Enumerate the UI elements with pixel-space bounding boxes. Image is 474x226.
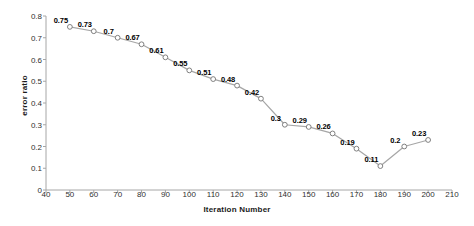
x-axis-tick-label: 210 xyxy=(437,190,467,199)
data-point-marker xyxy=(91,29,96,34)
data-point-label: 0.42 xyxy=(245,87,259,96)
data-point-label: 0.23 xyxy=(412,128,426,137)
data-point-marker xyxy=(426,138,431,143)
data-point-marker xyxy=(282,122,287,127)
data-point-marker xyxy=(306,125,311,130)
data-point-label: 0.61 xyxy=(149,46,163,55)
data-point-label: 0.3 xyxy=(271,113,281,122)
data-point-label: 0.73 xyxy=(78,20,92,29)
data-point-marker xyxy=(187,68,192,73)
data-point-marker xyxy=(354,146,359,151)
data-point-label: 0.11 xyxy=(364,155,378,164)
data-point-marker xyxy=(139,42,144,47)
data-point-label: 0.7 xyxy=(104,26,114,35)
data-point-marker xyxy=(330,131,335,136)
data-point-label: 0.75 xyxy=(54,15,68,24)
x-axis-tick-labels: 4050607080901001101201301401501601701801… xyxy=(0,190,474,204)
data-point-label: 0.19 xyxy=(340,137,354,146)
data-point-marker xyxy=(115,35,120,40)
data-point-marker xyxy=(378,164,383,169)
data-series-line xyxy=(70,27,428,166)
data-point-label: 0.55 xyxy=(173,59,187,68)
data-point-label: 0.2 xyxy=(390,135,400,144)
data-point-label: 0.29 xyxy=(293,115,307,124)
data-point-marker xyxy=(67,24,72,29)
data-point-label: 0.67 xyxy=(125,33,139,42)
error-ratio-line-chart: error ratio 00.10.20.30.40.50.60.70.8 0.… xyxy=(0,0,474,226)
data-point-marker xyxy=(211,77,216,82)
data-point-marker xyxy=(235,83,240,88)
x-axis-title-text: Iteration Number xyxy=(203,205,270,214)
data-point-marker xyxy=(163,55,168,60)
x-axis-title: Iteration Number xyxy=(0,205,474,214)
data-point-label: 0.51 xyxy=(197,68,211,77)
data-point-marker xyxy=(402,144,407,149)
data-point-marker xyxy=(259,96,264,101)
data-point-label: 0.48 xyxy=(221,74,235,83)
data-point-label: 0.26 xyxy=(316,122,330,131)
